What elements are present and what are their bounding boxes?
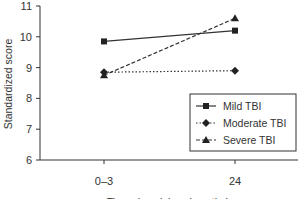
y-tick-label: 6 bbox=[26, 154, 32, 166]
series-mild-tbi bbox=[101, 28, 238, 45]
line-chart: 67891011 0–324 Mild TBIModerate TBISever… bbox=[0, 0, 298, 199]
y-tick-label: 9 bbox=[26, 62, 32, 74]
legend-item-label: Mild TBI bbox=[223, 100, 261, 112]
legend-item-label: Severe TBI bbox=[223, 134, 275, 146]
y-tick-label: 8 bbox=[26, 92, 32, 104]
x-axis-label: Time since injury (months) bbox=[107, 196, 230, 199]
y-tick-label: 11 bbox=[21, 0, 32, 12]
y-axis: 67891011 bbox=[20, 0, 40, 166]
legend-item-label: Moderate TBI bbox=[223, 117, 286, 129]
y-tick-label: 10 bbox=[20, 31, 32, 43]
y-tick-label: 7 bbox=[26, 123, 32, 135]
y-axis-label: Standardized score bbox=[2, 39, 14, 130]
x-axis: 0–324 bbox=[40, 160, 298, 187]
series-group bbox=[100, 14, 239, 78]
legend: Mild TBIModerate TBISevere TBI bbox=[190, 94, 296, 151]
series-severe-tbi bbox=[100, 14, 239, 78]
x-tick-label: 24 bbox=[229, 175, 241, 187]
x-tick-label: 0–3 bbox=[95, 175, 113, 187]
